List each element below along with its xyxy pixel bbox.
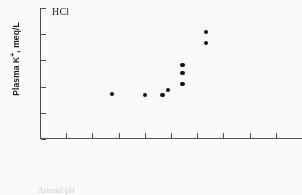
- x-tick: [92, 133, 93, 138]
- y-axis-label: Plasma K+, meq/L: [11, 0, 21, 124]
- x-tick: [119, 133, 120, 138]
- x-tick: [223, 133, 224, 138]
- chart-figure: Plasma K+, meq/L HCl 3.03.54.04.55.05.5 …: [0, 0, 302, 195]
- data-point: [180, 63, 184, 67]
- y-tick: [41, 87, 46, 88]
- y-tick: [41, 60, 46, 61]
- x-tick: [66, 133, 67, 138]
- y-tick: [41, 8, 46, 9]
- y-axis-label-superscript: +: [9, 53, 16, 57]
- data-point: [166, 88, 170, 92]
- plot-area: HCl 3.03.54.04.55.05.5: [40, 8, 302, 139]
- figure-caption: Arterial pH: [38, 186, 75, 195]
- x-axis-spine: [40, 138, 302, 139]
- y-tick: [41, 139, 46, 140]
- y-tick: [41, 113, 46, 114]
- data-point: [180, 71, 184, 75]
- y-axis-spine: [40, 8, 41, 139]
- x-tick: [250, 133, 251, 138]
- x-tick: [276, 133, 277, 138]
- data-point: [160, 93, 164, 97]
- data-point: [204, 30, 208, 34]
- data-point: [204, 41, 208, 45]
- data-point: [143, 93, 147, 97]
- panel-label: HCl: [52, 6, 69, 17]
- y-tick: [41, 34, 46, 35]
- data-point: [110, 92, 114, 96]
- y-axis-label-suffix: , meq/L: [11, 22, 21, 52]
- y-axis-label-prefix: Plasma K: [11, 57, 21, 96]
- x-tick: [145, 133, 146, 138]
- x-tick: [197, 133, 198, 138]
- data-point: [180, 82, 184, 86]
- x-tick: [171, 133, 172, 138]
